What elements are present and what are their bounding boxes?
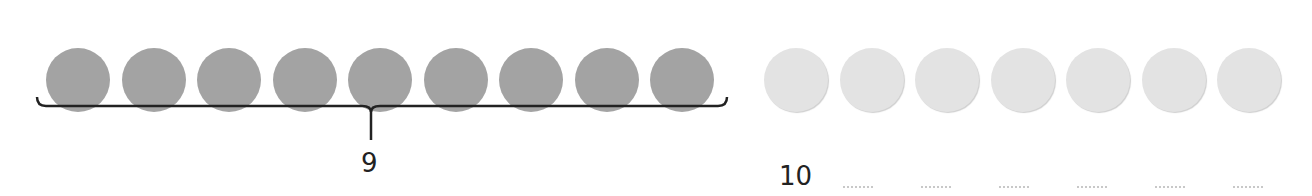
answer-blank bbox=[1155, 186, 1185, 188]
answer-blank bbox=[1233, 186, 1263, 188]
answer-blank bbox=[999, 186, 1029, 188]
answer-blank bbox=[921, 186, 951, 188]
answer-blank bbox=[1077, 186, 1107, 188]
answer-blank bbox=[843, 186, 873, 188]
curly-brace bbox=[0, 0, 1312, 196]
brace-count-label: 9 bbox=[361, 150, 378, 176]
next-count-label: 10 bbox=[779, 163, 812, 189]
